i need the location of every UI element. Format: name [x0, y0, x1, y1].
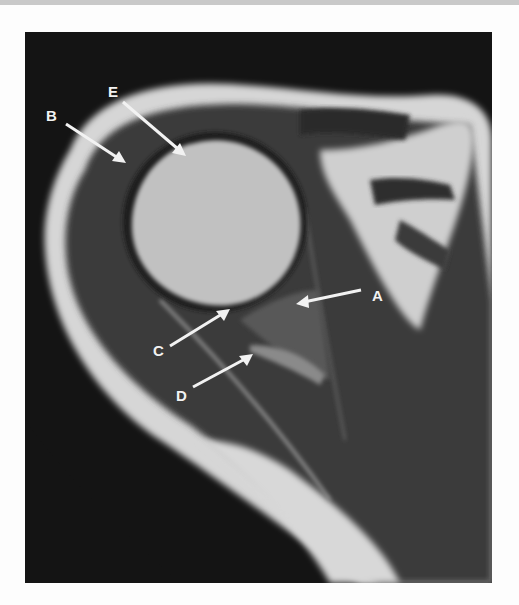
top-strip: [0, 0, 519, 5]
label-e: E: [108, 84, 118, 99]
mri-image: A B C D E: [25, 32, 492, 583]
label-c: C: [153, 343, 164, 358]
label-d: D: [176, 388, 187, 403]
label-a: A: [372, 288, 383, 303]
label-b: B: [46, 108, 57, 123]
mri-anatomy: [25, 32, 492, 583]
